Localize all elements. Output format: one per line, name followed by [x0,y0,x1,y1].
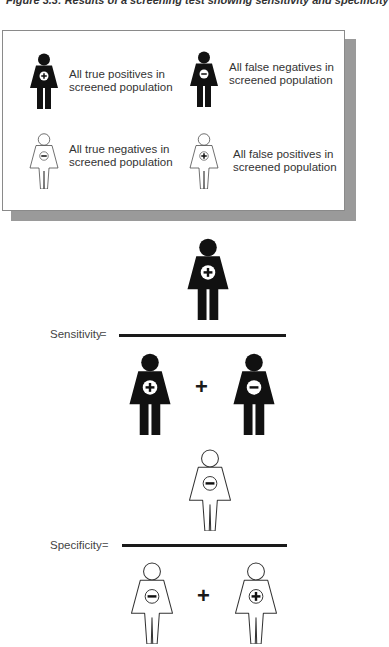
legend-text-line2: screened population [69,156,173,169]
legend-box: All true positives in screened populatio… [2,30,345,211]
specificity-label: Specificity [50,539,102,551]
legend-text-line1: All true negatives in [69,143,173,156]
filled-person-plus-icon [29,53,59,109]
legend-text-line1: All true positives in [69,68,173,81]
legend-text-line2: screened population [69,81,173,94]
sensitivity-plus-operator: + [195,376,208,398]
sensitivity-fraction-bar [119,334,286,337]
sensitivity-denominator-false-negative-icon [232,346,276,442]
outline-person-minus-icon [29,133,59,189]
specificity-equals: = [102,539,108,551]
legend-text-line2: screened population [229,74,334,87]
figure-title: Figure 3.3: Results of a screening test … [6,0,389,6]
legend-text-line1: All false positives in [233,148,337,161]
filled-person-minus-icon [189,51,219,107]
sensitivity-numerator-true-positive-icon [186,231,230,327]
specificity-denominator-true-negative-icon [130,555,174,647]
legend-item-true-positives: All true positives in screened populatio… [29,53,173,109]
legend-item-false-negatives: All false negatives in screened populati… [189,51,334,107]
legend-item-false-positives: All false positives in screened populati… [189,133,337,189]
specificity-fraction-bar [122,544,287,547]
sensitivity-equals: = [100,328,106,340]
legend-text-line1: All false negatives in [229,61,334,74]
sensitivity-label: Sensitivity [50,328,102,340]
specificity-plus-operator: + [197,585,210,607]
specificity-denominator-false-positive-icon [234,555,278,647]
sensitivity-denominator-true-positive-icon [128,346,172,442]
legend-item-true-negatives: All true negatives in screened populatio… [29,133,173,189]
specificity-numerator-true-negative-icon [188,442,232,538]
outline-person-plus-icon [189,133,219,189]
legend-text-line2: screened population [233,161,337,174]
